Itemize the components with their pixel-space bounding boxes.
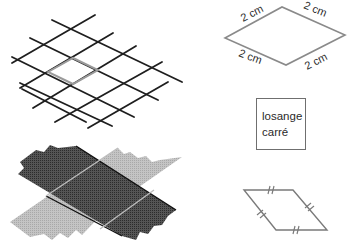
rhombus-with-ticks	[230, 170, 349, 247]
side-label-top-right: 2 cm	[302, 0, 329, 19]
equal-side-ticks	[257, 186, 314, 234]
isometric-grid	[0, 0, 200, 130]
side-label-bottom-right: 2 cm	[302, 50, 329, 72]
rhombus-figure: 2 cm 2 cm 2 cm 2 cm	[210, 0, 349, 80]
rhombus-with-labels: 2 cm 2 cm 2 cm 2 cm	[210, 0, 349, 80]
overlapping-strips	[0, 130, 200, 247]
side-label-top-left: 2 cm	[238, 2, 265, 24]
tick-rhombus-figure	[230, 170, 349, 247]
tick-rhombus-shape	[244, 190, 327, 230]
side-label-bottom-left: 2 cm	[237, 47, 264, 66]
shape-name-box: losange carré	[256, 98, 306, 150]
label-losange: losange	[262, 108, 305, 124]
label-carre: carré	[262, 124, 305, 140]
highlighted-rhombus	[48, 58, 98, 84]
strips-figure	[0, 130, 200, 247]
grid-figure	[0, 0, 200, 130]
